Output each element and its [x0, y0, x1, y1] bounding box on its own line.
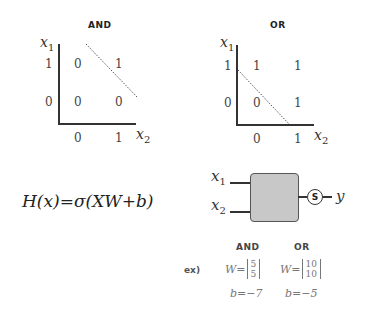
hypothesis-formula: H(x)=σ(XW+b) [22, 191, 154, 211]
example-or-label: OR [294, 242, 310, 252]
and-y-tick-0: 0 [45, 95, 53, 109]
or-cell: 1 [294, 96, 302, 110]
and-cell: 0 [74, 57, 82, 71]
or-plot-title: OR [270, 20, 286, 30]
or-decision-boundary [236, 68, 292, 126]
neuron-output-y: y [336, 187, 344, 205]
example-and-bias: b=−7 [230, 287, 262, 300]
or-y-axis-label: x1 [220, 34, 234, 53]
or-x-tick-0: 0 [253, 132, 261, 146]
and-x-axis-label: x2 [136, 126, 150, 145]
or-y-tick-1: 1 [224, 59, 232, 73]
and-x-tick-1: 1 [115, 131, 123, 145]
w-label: W= [225, 263, 246, 276]
and-y-axis [58, 44, 60, 125]
or-x-tick-1: 1 [294, 132, 302, 146]
sigmoid-node: S [307, 189, 323, 205]
w-top: 10 [306, 259, 317, 269]
neuron-box [250, 173, 299, 222]
example-and-weights: W= 5 5 [225, 259, 260, 279]
and-x-axis [58, 123, 136, 125]
neuron-input-x2: x2 [211, 196, 226, 216]
and-cell: 1 [115, 57, 123, 71]
or-y-tick-0: 0 [224, 96, 232, 110]
and-y-tick-1: 1 [45, 57, 53, 71]
and-cell: 0 [115, 95, 123, 109]
and-y-axis-label: x1 [40, 34, 54, 53]
example-or-bias: b=−5 [285, 287, 317, 300]
input2-line [230, 211, 250, 213]
or-cell: 1 [294, 59, 302, 73]
example-and-label: AND [236, 242, 259, 252]
example-or-weights: W= 10 10 [280, 259, 321, 279]
matrix: 10 10 [302, 259, 321, 279]
sigmoid-to-output-line [323, 196, 332, 198]
and-cell: 0 [74, 95, 82, 109]
w-bottom: 10 [306, 269, 317, 279]
input1-line [230, 182, 250, 184]
neuron-input-x1: x1 [211, 167, 226, 187]
w-label: W= [280, 263, 301, 276]
matrix: 5 5 [247, 259, 261, 279]
or-cell: 1 [253, 59, 261, 73]
example-prefix: ex) [184, 265, 200, 275]
w-bottom: 5 [251, 269, 257, 279]
or-x-axis-label: x2 [314, 127, 328, 146]
or-cell: 0 [253, 96, 261, 110]
box-to-sigmoid-line [298, 196, 307, 198]
and-decision-boundary [84, 42, 140, 100]
w-top: 5 [251, 259, 257, 269]
and-plot-title: AND [88, 20, 111, 30]
and-x-tick-0: 0 [74, 131, 82, 145]
